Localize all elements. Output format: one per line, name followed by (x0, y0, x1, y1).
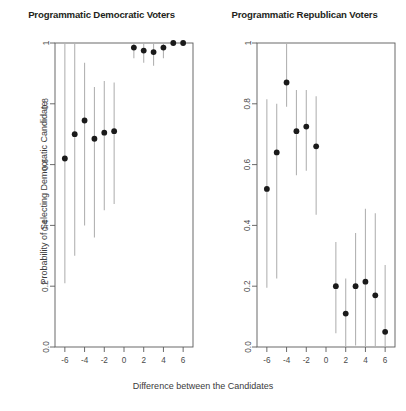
x-tick-label: -6 (263, 356, 271, 365)
plot-box (55, 43, 193, 347)
plot-box (257, 43, 395, 347)
data-point (284, 80, 290, 86)
x-tick-label: 6 (383, 356, 388, 365)
x-tick-label: -4 (81, 356, 89, 365)
figure: Programmatic Democratic Voters 0.00.20.4… (0, 0, 406, 411)
data-point (92, 136, 98, 142)
y-tick-label: 0.2 (244, 280, 253, 292)
x-tick-label: -4 (283, 356, 291, 365)
data-point (363, 279, 369, 285)
data-point (72, 131, 78, 137)
x-tick-label: 0 (324, 356, 329, 365)
data-point (141, 48, 147, 54)
x-tick-label: 2 (141, 356, 146, 365)
y-axis-label: Probability of Selecting Democratic Cand… (39, 43, 49, 343)
y-tick-label: 0.0 (244, 341, 253, 353)
x-tick-label: -6 (61, 356, 69, 365)
data-point (333, 283, 339, 289)
y-axis-label-wrap: Probability of Selecting Democratic Cand… (0, 0, 26, 411)
data-point (101, 130, 107, 136)
panel-republican: Programmatic Republican Voters 0.00.20.4… (203, 0, 406, 411)
y-tick-label: 0.4 (244, 219, 253, 231)
data-point (161, 45, 167, 51)
data-point (294, 128, 300, 134)
data-point (180, 40, 186, 46)
x-axis-label: Difference between the Candidates (0, 381, 406, 391)
x-tick-label: 6 (181, 356, 186, 365)
x-tick-label: 4 (161, 356, 166, 365)
data-point (111, 128, 117, 134)
x-tick-label: -2 (101, 356, 109, 365)
x-tick-label: 4 (363, 356, 368, 365)
scatter-plot-democratic: 0.00.20.40.60.81-6-4-20246 (0, 0, 203, 411)
data-point (382, 329, 388, 335)
data-point (264, 186, 270, 192)
y-tick-label: 0.8 (244, 98, 253, 110)
data-point (372, 292, 378, 298)
data-point (343, 311, 349, 317)
data-point (131, 45, 137, 51)
data-point (62, 156, 68, 162)
data-point (353, 283, 359, 289)
data-point (274, 150, 280, 156)
scatter-plot-republican: 0.00.20.40.60.81-6-4-20246 (203, 0, 406, 411)
x-tick-label: -2 (303, 356, 311, 365)
y-tick-label: 1 (244, 40, 253, 45)
y-tick-label: 0.6 (244, 158, 253, 170)
data-point (313, 143, 319, 149)
data-point (82, 118, 88, 124)
x-tick-label: 0 (122, 356, 127, 365)
data-point (303, 124, 309, 130)
x-tick-label: 2 (343, 356, 348, 365)
panel-democratic: Programmatic Democratic Voters 0.00.20.4… (0, 0, 203, 411)
data-point (170, 40, 176, 46)
data-point (151, 49, 157, 55)
